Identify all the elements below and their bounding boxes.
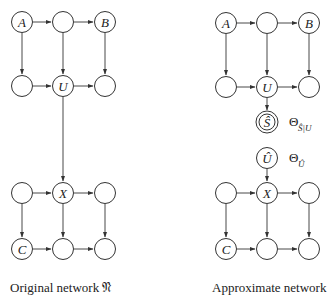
svg-text:Û: Û	[262, 151, 273, 166]
svg-text:C: C	[222, 242, 231, 257]
node-s-hat: Ŝ	[256, 111, 278, 133]
svg-text:Ŝ: Ŝ	[264, 115, 271, 130]
node-c: C	[216, 239, 237, 260]
node-bot-right	[95, 239, 116, 260]
svg-text:X: X	[262, 186, 272, 201]
svg-text:Θ: Θ	[289, 114, 298, 129]
svg-text:B: B	[305, 16, 313, 31]
theta-u-hat-label: Θ Û	[289, 150, 305, 169]
node-a: A	[216, 13, 237, 34]
svg-text:A: A	[221, 16, 230, 31]
svg-text:B: B	[101, 15, 109, 30]
svg-text:X: X	[58, 186, 68, 201]
node-top-mid	[257, 13, 278, 34]
node-x: X	[53, 183, 74, 204]
node-mid-left	[12, 76, 33, 97]
node-a: A	[12, 12, 33, 33]
node-u: U	[53, 76, 74, 97]
svg-text:Ŝ|U: Ŝ|U	[298, 123, 312, 133]
node-mid-right	[299, 77, 320, 98]
right-caption: Approximate network	[212, 280, 326, 296]
node-low-right	[299, 183, 320, 204]
node-top-mid	[53, 12, 74, 33]
node-b: B	[95, 12, 116, 33]
node-u: U	[257, 77, 278, 98]
node-bot-mid	[257, 239, 278, 260]
svg-text:U: U	[58, 79, 69, 94]
node-low-left	[216, 183, 237, 204]
node-low-right	[95, 183, 116, 204]
svg-text:Θ: Θ	[289, 150, 298, 165]
node-mid-left	[216, 77, 237, 98]
node-bot-mid	[53, 239, 74, 260]
node-x: X	[257, 183, 278, 204]
theta-s-given-u-label: Θ Ŝ|U	[289, 114, 312, 133]
svg-text:U: U	[262, 80, 273, 95]
svg-text:C: C	[18, 242, 27, 257]
node-u-hat: Û	[257, 148, 278, 169]
svg-text:A: A	[17, 15, 26, 30]
right-network: A B U Ŝ Θ Ŝ|U Û Θ Û X C	[216, 13, 320, 260]
node-low-left	[12, 183, 33, 204]
node-b: B	[299, 13, 320, 34]
left-network: A B U X C	[12, 12, 116, 260]
svg-text:Û: Û	[298, 159, 305, 169]
node-mid-right	[95, 76, 116, 97]
left-caption: Original network 𝔑	[10, 280, 111, 296]
node-bot-right	[299, 239, 320, 260]
node-c: C	[12, 239, 33, 260]
